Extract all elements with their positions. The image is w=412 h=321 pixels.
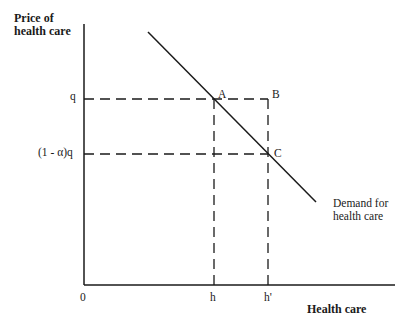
x-axis-label: Health care <box>307 303 366 316</box>
y-tick-reduced-price: (1 - α)q <box>38 146 73 159</box>
diagram-canvas <box>0 0 412 321</box>
y-axis-label: Price of health care <box>14 12 71 38</box>
demand-curve-label: Demand for health care <box>333 197 388 223</box>
y-axis-label-line2: health care <box>14 25 71 38</box>
demand-label-line2: health care <box>333 210 388 223</box>
origin-label: 0 <box>80 291 86 304</box>
x-tick-h-prime: h' <box>264 291 272 304</box>
point-b-label: B <box>272 88 280 101</box>
point-a-label: A <box>218 88 226 101</box>
demand-curve <box>148 32 316 202</box>
point-c-label: C <box>274 147 282 160</box>
demand-label-line1: Demand for <box>333 197 388 210</box>
y-tick-q: q <box>70 90 76 103</box>
x-tick-h: h <box>210 291 216 304</box>
